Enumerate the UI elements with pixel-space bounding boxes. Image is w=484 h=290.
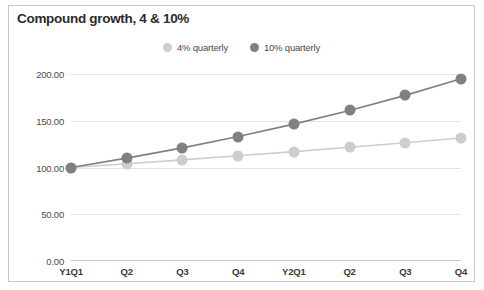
data-point[interactable] <box>66 162 77 173</box>
data-point[interactable] <box>121 153 132 164</box>
data-point[interactable] <box>288 119 299 130</box>
x-axis-tick-label: Q4 <box>232 266 244 277</box>
y-axis-tick-label: 0.00 <box>46 256 64 267</box>
y-axis-tick-label: 100.00 <box>36 162 64 173</box>
legend-label-10-percent: 10% quarterly <box>264 42 320 53</box>
legend-marker-4-percent <box>163 43 172 52</box>
legend-label-4-percent: 4% quarterly <box>177 42 228 53</box>
data-point[interactable] <box>456 132 467 143</box>
x-axis-tick-label: Q2 <box>121 266 133 277</box>
x-axis-tick-label: Y1Q1 <box>59 266 83 277</box>
chart-title: Compound growth, 4 & 10% <box>17 11 189 26</box>
legend-item-4-percent[interactable]: 4% quarterly <box>163 42 228 53</box>
y-axis-tick-label: 150.00 <box>36 115 64 126</box>
data-point[interactable] <box>233 150 244 161</box>
data-point[interactable] <box>177 142 188 153</box>
x-axis-tick-label: Q4 <box>455 266 467 277</box>
x-axis-tick-label: Q3 <box>176 266 188 277</box>
legend-item-10-percent[interactable]: 10% quarterly <box>250 42 320 53</box>
data-point[interactable] <box>288 146 299 157</box>
chart-panel: Compound growth, 4 & 10% 4% quarterly 10… <box>8 5 475 282</box>
data-point[interactable] <box>344 105 355 116</box>
plot-area: 0.0050.00100.00150.00200.00 Y1Q1Q2Q3Q4Y2… <box>71 74 461 261</box>
y-axis-tick-label: 50.00 <box>41 209 64 220</box>
x-axis-tick-label: Q2 <box>343 266 355 277</box>
x-axis-tick-label: Y2Q1 <box>282 266 306 277</box>
x-axis-tick-label: Q3 <box>399 266 411 277</box>
chart-legend: 4% quarterly 10% quarterly <box>9 42 474 53</box>
data-point[interactable] <box>233 131 244 142</box>
data-point[interactable] <box>344 142 355 153</box>
data-point[interactable] <box>456 73 467 84</box>
y-axis-tick-label: 200.00 <box>36 69 64 80</box>
legend-marker-10-percent <box>250 43 259 52</box>
data-point[interactable] <box>400 137 411 148</box>
data-point[interactable] <box>177 154 188 165</box>
data-point[interactable] <box>400 90 411 101</box>
